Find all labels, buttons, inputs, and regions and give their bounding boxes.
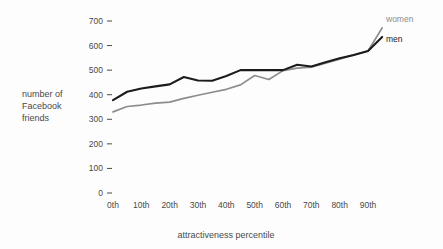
x-axis-title-label: attractiveness percentile	[177, 230, 274, 240]
y-axis-title-line: friends	[22, 113, 50, 123]
series-lines	[113, 28, 382, 112]
y-axis-ticks: 0100200300400500600700	[89, 16, 112, 198]
x-tick-label: 40th	[218, 200, 235, 210]
legend-label-men: men	[386, 34, 403, 44]
y-tick-label: 300	[89, 114, 103, 124]
x-tick-label: 60th	[275, 200, 292, 210]
x-tick-label: 30th	[190, 200, 207, 210]
x-tick-label: 80th	[331, 200, 348, 210]
x-tick-label: 20th	[161, 200, 178, 210]
chart-plot-area: 0100200300400500600700 0th10th20th30th40…	[0, 0, 443, 249]
x-tick-label: 70th	[303, 200, 320, 210]
y-tick-label: 100	[89, 163, 103, 173]
legend-label-women: women	[385, 14, 414, 24]
y-tick-label: 0	[98, 188, 103, 198]
y-axis-title: number ofFacebookfriends	[22, 89, 63, 123]
y-axis-title-line: Facebook	[22, 101, 62, 111]
x-tick-label: 0th	[107, 200, 119, 210]
legend: womenmen	[385, 14, 414, 44]
x-axis-ticks: 0th10th20th30th40th50th60th70th80th90th	[107, 200, 376, 210]
facebook-friends-chart: 0100200300400500600700 0th10th20th30th40…	[0, 0, 443, 249]
y-tick-label: 500	[89, 65, 103, 75]
y-tick-label: 200	[89, 139, 103, 149]
series-line-men	[113, 37, 382, 100]
x-tick-label: 90th	[360, 200, 377, 210]
y-axis-title-line: number of	[22, 89, 63, 99]
y-tick-label: 700	[89, 16, 103, 26]
y-tick-label: 600	[89, 41, 103, 51]
x-tick-label: 10th	[133, 200, 150, 210]
y-tick-label: 400	[89, 90, 103, 100]
x-tick-label: 50th	[246, 200, 263, 210]
